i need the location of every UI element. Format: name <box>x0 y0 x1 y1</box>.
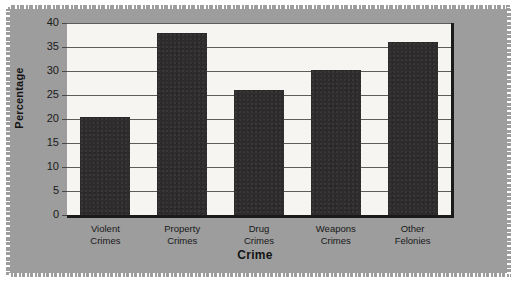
y-axis-tick-label: 35 <box>33 40 59 52</box>
bar <box>157 33 207 215</box>
x-axis-title: Crime <box>50 248 460 262</box>
y-axis-tick-label: 5 <box>33 184 59 196</box>
bar <box>311 70 361 215</box>
x-axis-category-label-line: Felonies <box>366 235 459 247</box>
bar <box>80 117 130 215</box>
y-axis-tick-label: 30 <box>33 64 59 76</box>
y-axis-tick-label: 20 <box>33 112 59 124</box>
x-axis-category-label: OtherFelonies <box>366 223 459 246</box>
y-axis-tick-label: 0 <box>33 208 59 220</box>
x-axis-category-label-line: Other <box>366 223 459 235</box>
bar <box>234 90 284 215</box>
y-axis-tick-label: 10 <box>33 160 59 172</box>
y-axis-tick-label: 40 <box>33 16 59 28</box>
gridline <box>67 23 451 24</box>
bar <box>388 42 438 215</box>
bar-chart-figure: Percentage 0510152025303540 ViolentCrime… <box>0 0 517 282</box>
y-axis-tick-label: 25 <box>33 88 59 100</box>
plot-area <box>67 23 454 218</box>
y-axis-title: Percentage <box>13 53 25 143</box>
y-axis-tick-label: 15 <box>33 136 59 148</box>
